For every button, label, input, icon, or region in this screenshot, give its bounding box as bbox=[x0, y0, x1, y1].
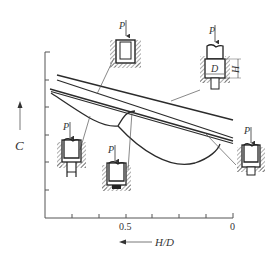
die-sketch-left: P bbox=[57, 121, 86, 177]
svg-text:P: P bbox=[62, 121, 69, 132]
curve-second bbox=[57, 80, 233, 138]
x-axis-arrow-icon bbox=[119, 240, 152, 245]
height-label: H bbox=[230, 65, 241, 74]
svg-text:P: P bbox=[107, 144, 114, 155]
svg-text:P: P bbox=[118, 20, 125, 31]
x-axis bbox=[45, 213, 233, 218]
die-sketch-right: P bbox=[237, 125, 265, 175]
y-axis bbox=[45, 52, 50, 218]
x-axis-label: H/D bbox=[154, 236, 174, 248]
die-sketch-center: P bbox=[102, 144, 131, 191]
diameter-label: D bbox=[210, 63, 219, 74]
chart-svg: C 0.5 0 H/D P P bbox=[0, 0, 276, 260]
x-tick-label-0: 0 bbox=[230, 221, 235, 232]
die-sketch-top-right: P D H bbox=[200, 25, 241, 89]
y-axis-arrow-icon bbox=[18, 101, 23, 130]
curve-double-line-b bbox=[51, 92, 233, 144]
y-axis-label: C bbox=[15, 138, 24, 153]
x-tick-label-0.5: 0.5 bbox=[119, 221, 132, 232]
svg-text:P: P bbox=[243, 125, 250, 136]
die-sketch-top-left: P bbox=[110, 20, 141, 68]
svg-text:P: P bbox=[208, 25, 215, 36]
diagram-canvas: C 0.5 0 H/D P P bbox=[0, 0, 276, 260]
